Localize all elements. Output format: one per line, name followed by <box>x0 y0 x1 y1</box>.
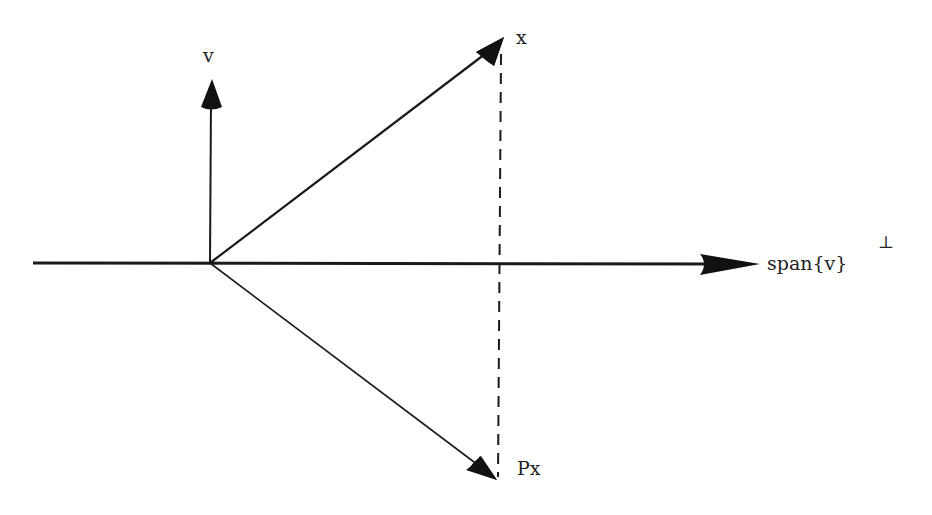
projection-dashed-line <box>498 54 501 477</box>
label-px: Px <box>517 459 541 478</box>
span-v-perp-axis <box>33 254 760 275</box>
axis-arrowhead-icon <box>700 254 760 275</box>
projection-diagram: v x Px span{v} ⊥ <box>0 0 932 515</box>
label-x: x <box>516 28 527 47</box>
label-v: v <box>203 46 214 65</box>
label-span-v: span{v} ⊥ <box>767 254 847 273</box>
v-arrowhead-icon <box>201 79 222 110</box>
span-v-text: span{v} <box>767 252 847 274</box>
vector-v <box>201 79 222 263</box>
vector-px <box>210 263 497 480</box>
perp-symbol: ⊥ <box>878 234 894 251</box>
vector-x <box>210 37 504 263</box>
